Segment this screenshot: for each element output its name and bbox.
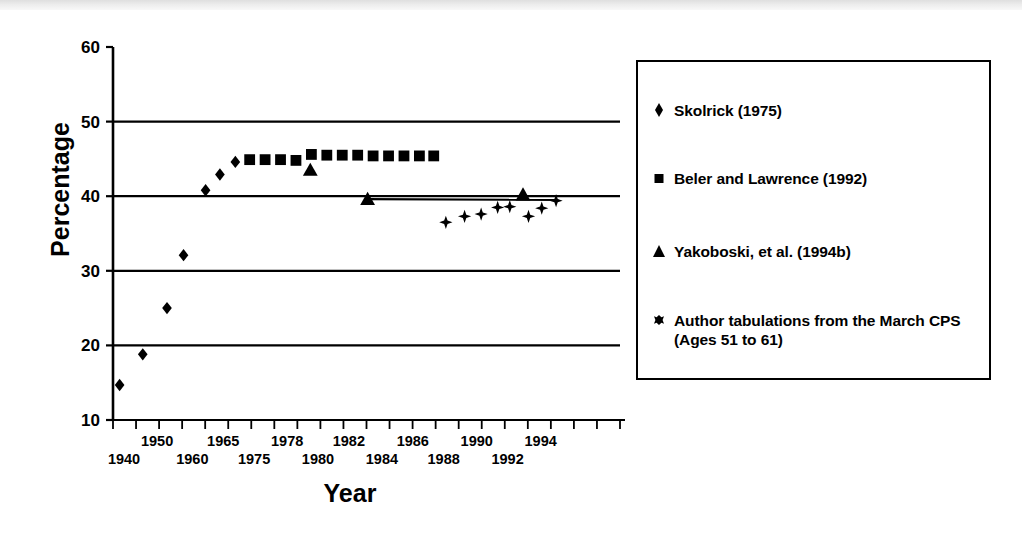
x-axis-title: Year bbox=[270, 479, 430, 508]
y-tick-label: 40 bbox=[81, 187, 100, 206]
square-marker bbox=[291, 155, 302, 166]
star-marker bbox=[491, 201, 504, 214]
x-tick-label: 1984 bbox=[366, 451, 398, 467]
x-tick-label: 1986 bbox=[397, 433, 429, 449]
x-axis-tick-labels: 1940195019601965197519781980198219841986… bbox=[108, 433, 557, 467]
square-marker bbox=[321, 150, 332, 161]
square-marker bbox=[244, 154, 255, 165]
diamond-marker bbox=[115, 379, 125, 391]
series-diamond bbox=[115, 156, 240, 391]
chart-figure: 102030405060 194019501960196519751978198… bbox=[0, 0, 1022, 535]
diamond-marker bbox=[138, 348, 148, 360]
star-marker bbox=[522, 210, 535, 223]
axes bbox=[113, 47, 625, 420]
square-marker bbox=[275, 154, 286, 165]
legend-label: Beler and Lawrence (1992) bbox=[674, 169, 867, 188]
star-marker bbox=[439, 216, 452, 229]
x-tick-label: 1975 bbox=[238, 451, 270, 467]
y-tick-label: 20 bbox=[81, 336, 100, 355]
square-marker bbox=[337, 150, 348, 161]
legend-label: Author tabulations from the March CPS (A… bbox=[674, 311, 961, 349]
square-marker-icon bbox=[652, 169, 666, 187]
x-tick-label: 1990 bbox=[461, 433, 493, 449]
square-marker bbox=[399, 151, 410, 162]
square-marker bbox=[260, 154, 271, 165]
x-tick-label: 1950 bbox=[141, 433, 173, 449]
x-tick-label: 1940 bbox=[108, 451, 140, 467]
star-marker bbox=[503, 200, 516, 213]
square-marker bbox=[306, 149, 317, 160]
square-marker bbox=[352, 150, 363, 161]
legend-label: Yakoboski, et al. (1994b) bbox=[674, 242, 851, 261]
x-axis-ticks bbox=[113, 420, 620, 429]
x-tick-label: 1980 bbox=[302, 451, 334, 467]
x-tick-label: 1978 bbox=[271, 433, 303, 449]
triangle-marker bbox=[516, 187, 531, 200]
y-tick-label: 30 bbox=[81, 262, 100, 281]
legend-item-skolrick: Skolrick (1975) bbox=[652, 101, 782, 120]
triangle-marker bbox=[303, 163, 318, 176]
square-marker bbox=[383, 151, 394, 162]
diamond-marker-icon bbox=[652, 101, 666, 119]
legend-label: Skolrick (1975) bbox=[674, 101, 782, 120]
series-square bbox=[244, 149, 439, 166]
diamond-marker bbox=[201, 184, 211, 196]
y-tick-label: 50 bbox=[81, 113, 100, 132]
star-marker bbox=[535, 202, 548, 215]
legend-item-beler-lawrence: Beler and Lawrence (1992) bbox=[652, 169, 867, 188]
x-tick-label: 1960 bbox=[176, 451, 208, 467]
x-tick-label: 1965 bbox=[207, 433, 239, 449]
y-axis-title: Percentage bbox=[46, 90, 75, 290]
x-tick-label: 1994 bbox=[525, 433, 557, 449]
x-tick-label: 1988 bbox=[428, 451, 460, 467]
star-marker bbox=[458, 210, 471, 223]
square-marker bbox=[368, 151, 379, 162]
star-marker-icon bbox=[652, 311, 666, 329]
diamond-marker bbox=[231, 156, 241, 168]
x-tick-label: 1982 bbox=[333, 433, 365, 449]
diamond-marker bbox=[179, 249, 189, 261]
y-axis-tick-labels: 102030405060 bbox=[81, 38, 113, 430]
star-marker bbox=[475, 208, 488, 221]
triangle-marker-icon bbox=[652, 242, 666, 260]
diamond-marker bbox=[162, 302, 172, 314]
y-tick-label: 10 bbox=[81, 411, 100, 430]
y-tick-label: 60 bbox=[81, 38, 100, 57]
legend: Skolrick (1975) Beler and Lawrence (1992… bbox=[636, 60, 991, 380]
diamond-marker bbox=[215, 168, 225, 180]
legend-item-yakoboski: Yakoboski, et al. (1994b) bbox=[652, 242, 851, 261]
x-tick-label: 1992 bbox=[491, 451, 523, 467]
gridlines bbox=[113, 122, 620, 346]
legend-item-author-tabulations: Author tabulations from the March CPS (A… bbox=[652, 311, 961, 349]
square-marker bbox=[428, 151, 439, 162]
square-marker bbox=[414, 151, 425, 162]
